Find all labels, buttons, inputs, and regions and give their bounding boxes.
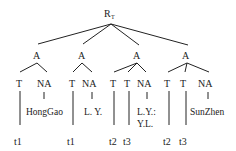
t-node-label: T: [164, 78, 170, 89]
time-leaf: t3: [179, 136, 187, 147]
na-node-label: NA: [37, 78, 52, 89]
t-node-label: T: [180, 78, 186, 89]
time-leaf: t3: [123, 136, 131, 147]
na-value: L. Y.: [84, 107, 102, 117]
na-node-label: NA: [137, 78, 152, 89]
root-node: R T: [104, 8, 115, 20]
a-node-label: A: [33, 50, 41, 61]
a-node-label: A: [133, 50, 141, 61]
na-value: L.Y.:: [137, 107, 156, 117]
root-label: R: [104, 8, 111, 19]
subtree-2: A T NA L. Y. t1: [67, 50, 102, 147]
time-leaf: t1: [67, 136, 75, 147]
time-leaf: t1: [14, 136, 22, 147]
tree-diagram: R T A T NA HongGao t1 A T NA L. Y. t1 A: [0, 0, 236, 151]
t-node-label: T: [16, 78, 22, 89]
subtree-3: A T T NA L.Y.: Y.L. t2 t3: [109, 50, 156, 147]
na-value: HongGao: [26, 107, 63, 117]
na-node-label: NA: [198, 78, 213, 89]
subtree-4: A T T NA SunZhen t2 t3: [163, 50, 225, 147]
na-value: SunZhen: [190, 107, 225, 117]
time-leaf: t2: [109, 136, 117, 147]
t-node-label: T: [124, 78, 130, 89]
time-leaf: t2: [163, 136, 171, 147]
root-subscript: T: [111, 14, 115, 20]
subtree-1: A T NA HongGao t1: [14, 50, 63, 147]
a-node-label: A: [182, 50, 190, 61]
na-value: Y.L.: [137, 119, 153, 129]
a-node-label: A: [78, 50, 86, 61]
t-node-label: T: [69, 78, 75, 89]
root-edges: [38, 24, 188, 45]
t-node-label: T: [110, 78, 116, 89]
na-node-label: NA: [82, 78, 97, 89]
